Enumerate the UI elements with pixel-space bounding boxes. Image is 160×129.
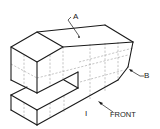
label-a: A bbox=[73, 13, 78, 21]
surface-grid bbox=[11, 42, 133, 118]
isometric-drawing bbox=[0, 0, 160, 129]
leaders bbox=[68, 17, 144, 112]
label-front: FRONT bbox=[110, 111, 136, 119]
view-mark: I bbox=[85, 110, 87, 118]
leader-a-dot bbox=[78, 36, 80, 38]
label-b: B bbox=[144, 72, 149, 80]
leader-b bbox=[130, 70, 144, 76]
